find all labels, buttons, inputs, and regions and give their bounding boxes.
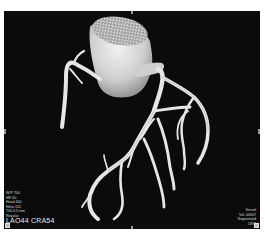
left-edge-marker: [4, 129, 6, 134]
top-edge-marker: [131, 11, 133, 14]
aortic-root: [89, 12, 164, 97]
coronary-3d-rendering[interactable]: [4, 11, 260, 229]
right-edge-marker: [258, 129, 260, 134]
3d-volume-viewport[interactable]: W/P 700 HR 60 Head 400 Helix 152 Thk 0.5…: [4, 11, 260, 229]
settings-square-icon[interactable]: [254, 223, 259, 228]
acquisition-info-overlay: W/P 700 HR 60 Head 400 Helix 152 Thk 0.5…: [6, 191, 25, 219]
settings-square-icon[interactable]: [5, 223, 10, 228]
orientation-label: LAO44 CRA54: [6, 217, 55, 225]
bottom-edge-marker: [131, 226, 133, 229]
